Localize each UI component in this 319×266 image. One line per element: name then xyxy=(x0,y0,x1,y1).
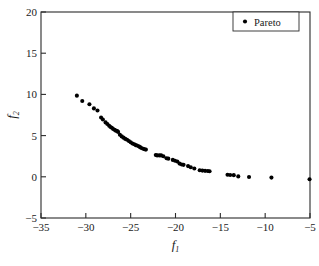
data-point xyxy=(308,177,312,181)
legend-marker-icon xyxy=(243,19,247,23)
y-tick-label: 20 xyxy=(26,6,38,18)
data-point xyxy=(166,157,170,161)
x-tick-label: −20 xyxy=(167,221,185,233)
data-point xyxy=(232,173,236,177)
data-point xyxy=(75,94,79,98)
y-tick-label: 10 xyxy=(26,88,38,100)
data-point xyxy=(92,106,96,110)
data-point xyxy=(80,99,84,103)
y-axis-title: f2 xyxy=(4,111,21,119)
x-axis-title: f1 xyxy=(172,237,180,254)
plot-frame xyxy=(41,12,310,218)
data-point xyxy=(189,165,193,169)
data-point xyxy=(247,175,251,179)
data-point xyxy=(208,169,212,173)
chart-legend: Pareto xyxy=(233,12,299,31)
x-tick-label: −15 xyxy=(212,221,230,233)
x-tick-label: −25 xyxy=(122,221,140,233)
y-axis-ticks xyxy=(41,12,46,218)
x-tick-label: −5 xyxy=(304,221,316,233)
data-point xyxy=(87,102,91,106)
data-point xyxy=(144,148,148,152)
data-point xyxy=(95,108,99,112)
scatter-points-layer xyxy=(75,94,312,182)
plot-border xyxy=(41,12,310,218)
x-axis-ticks xyxy=(41,213,310,218)
data-point xyxy=(269,176,273,180)
data-point xyxy=(192,167,196,171)
x-axis-tick-labels: −35−30−25−20−15−10−5 xyxy=(32,221,316,233)
chart-canvas: −35−30−25−20−15−10−5 −505101520 Pareto f… xyxy=(0,0,319,266)
y-axis-tick-labels: −505101520 xyxy=(25,6,37,224)
y-tick-label: −5 xyxy=(25,212,37,224)
data-point xyxy=(228,173,232,177)
data-point xyxy=(236,174,240,178)
y-tick-label: 0 xyxy=(32,171,38,183)
x-tick-label: −30 xyxy=(77,221,95,233)
pareto-front-chart: −35−30−25−20−15−10−5 −505101520 Pareto f… xyxy=(0,0,319,266)
data-point xyxy=(182,163,186,167)
y-tick-label: 5 xyxy=(32,130,38,142)
legend-label: Pareto xyxy=(254,17,281,28)
y-tick-label: 15 xyxy=(26,47,38,59)
x-tick-label: −10 xyxy=(257,221,275,233)
